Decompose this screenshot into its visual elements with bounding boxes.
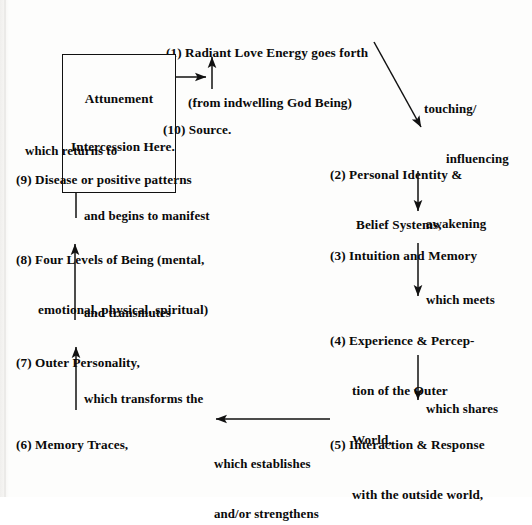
edge-label-touching-line-1: touching/ xyxy=(424,101,509,118)
attunement-box-line-1: Attunement xyxy=(71,91,167,107)
edge-label-which-meets-line-1: which meets xyxy=(426,292,495,309)
edge-label-touching-influencing: touching/ influencing xyxy=(424,68,509,200)
edge-label-which-establishes-line-1: which establishes xyxy=(214,456,319,473)
edge-label-which-shares-line-1: which shares xyxy=(426,401,498,418)
edge-label-which-shares: which shares xyxy=(426,368,498,451)
edge-label-touching-line-2: influencing xyxy=(424,151,509,168)
edge-label-awakening: awakening xyxy=(426,183,486,266)
edge-label-awakening-line-1: awakening xyxy=(426,216,486,233)
arrow-1-to-2 xyxy=(374,42,421,127)
edge-label-and-transmutes: and transmutes xyxy=(84,272,171,355)
edge-label-and-transmutes-line-1: and transmutes xyxy=(84,305,171,322)
edge-label-which-transforms-line-1: which transforms the xyxy=(84,391,203,408)
node-5-line-2: with the outside world, xyxy=(330,487,485,504)
edge-label-which-transforms-the: which transforms the xyxy=(84,358,203,441)
node-10-line-1: (10) Source. xyxy=(163,122,231,139)
edge-label-and-begins-line-1: and begins to manifest xyxy=(84,208,210,225)
edge-label-which-establishes-line-2: and/or strengthens xyxy=(214,506,319,523)
edge-label-which-returns-to: which returns to xyxy=(25,110,117,193)
edge-label-which-meets: which meets xyxy=(426,259,495,342)
node-1-line-1: (1) Radiant Love Energy goes forth xyxy=(166,45,368,62)
edge-label-which-establishes: which establishes and/or strengthens xyxy=(214,423,319,525)
edge-label-which-returns-line-1: which returns to xyxy=(25,143,117,160)
